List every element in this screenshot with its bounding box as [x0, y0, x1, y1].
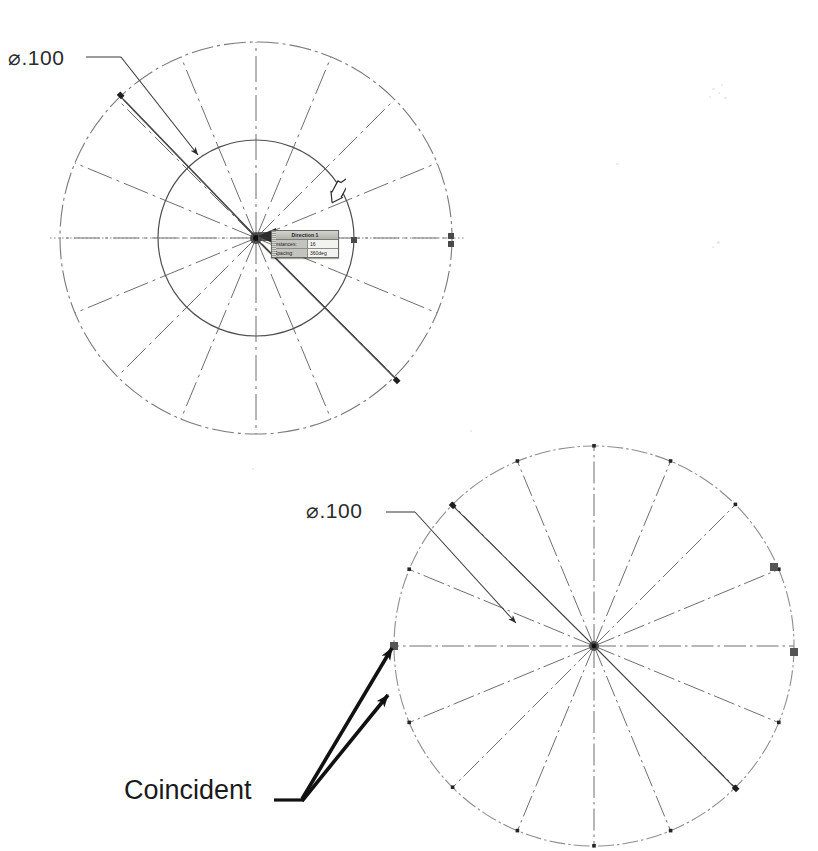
dimension-label-top: ⌀.100 [8, 47, 64, 68]
instances-input[interactable]: 16 [308, 240, 338, 248]
dialog-row-instances[interactable]: Instances: 16 [272, 240, 338, 249]
figure-canvas: ⌀.100 ⌀.100 Coincident Direction 1 Insta… [0, 0, 818, 851]
cad-sketch-drawing [0, 0, 818, 851]
instances-label: Instances: [272, 240, 308, 248]
dialog-row-spacing[interactable]: Spacing: 360deg [272, 249, 338, 257]
sketch-top-group [50, 42, 466, 434]
dimension-label-bottom: ⌀.100 [306, 500, 362, 521]
spacing-input[interactable]: 360deg [308, 249, 338, 257]
leader-top-diameter [86, 57, 198, 155]
dialog-title: Direction 1 [272, 231, 338, 240]
coincident-arrow-1 [302, 648, 392, 799]
dialog-grip-handle[interactable] [272, 231, 276, 257]
leader-bottom-diameter [386, 512, 516, 623]
spacing-label: Spacing: [272, 249, 308, 257]
circular-pattern-dialog[interactable]: Direction 1 Instances: 16 Spacing: 360de… [271, 230, 339, 258]
coincident-arrow-2 [302, 695, 388, 801]
sketch-top-selection-handles[interactable] [351, 233, 454, 247]
coincident-leader-group [274, 648, 392, 801]
sketch-bottom-center-cluster [589, 641, 599, 651]
coincident-note-label: Coincident [124, 777, 252, 804]
sketch-bottom-group [386, 444, 798, 848]
arrow-cursor-icon [326, 174, 346, 206]
